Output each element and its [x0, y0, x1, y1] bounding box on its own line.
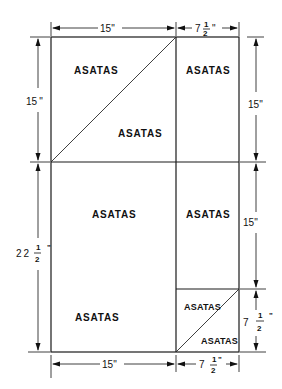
svg-text:22: 22	[16, 248, 31, 259]
label-top-left-upper: ASATAS	[74, 65, 118, 76]
dim-right-middle-15: 15"	[243, 217, 258, 228]
dim-right-upper-15: 15"	[248, 99, 263, 110]
svg-text:7: 7	[195, 23, 201, 34]
svg-text:1: 1	[204, 20, 209, 29]
svg-text:1: 1	[36, 243, 41, 252]
label-mid-right: ASATAS	[186, 209, 230, 220]
label-top-right: ASATAS	[186, 65, 230, 76]
label-bottom-right-lower: ASATAS	[201, 336, 238, 346]
dimension-top: 15" 7 1 2 "	[51, 20, 239, 38]
dim-right-lower-7-half: 7 1 2 "	[243, 311, 273, 333]
svg-text:2: 2	[257, 324, 262, 333]
dim-bottom-right-7-half: 7 1 2 "	[199, 355, 222, 375]
svg-text:": "	[218, 355, 222, 364]
svg-text:": "	[47, 243, 51, 252]
dimension-right: 15" 15" 7 1 2 "	[240, 37, 273, 352]
svg-text:1: 1	[258, 311, 263, 320]
svg-text:2: 2	[35, 255, 40, 264]
svg-text:": "	[269, 311, 273, 320]
dimension-bottom: 15" 7 1 2 "	[51, 355, 239, 378]
diagonal-top-left	[51, 37, 176, 162]
dim-left-upper-15: 15"	[26, 96, 43, 107]
svg-text:7: 7	[199, 359, 205, 370]
cutting-diagram: ASATAS ASATAS ASATAS ASATAS ASATAS ASATA…	[0, 0, 282, 389]
region-labels: ASATAS ASATAS ASATAS ASATAS ASATAS ASATA…	[74, 65, 238, 346]
svg-text:2: 2	[211, 366, 216, 375]
dim-left-lower-22-half: 22 1 2 "	[16, 243, 51, 264]
dimension-left: 15" 22 1 2 "	[16, 37, 51, 352]
svg-text:7: 7	[243, 317, 249, 328]
svg-text:2: 2	[203, 29, 208, 38]
dim-bottom-left-15: 15"	[102, 359, 117, 370]
dim-top-right-7-half: 7 1 2 "	[195, 20, 216, 38]
label-top-left-lower: ASATAS	[118, 128, 162, 139]
label-bottom-right-upper: ASATAS	[184, 302, 221, 312]
label-bottom-left: ASATAS	[75, 312, 119, 323]
dim-top-left-15: 15"	[100, 23, 115, 34]
svg-text:": "	[212, 23, 216, 34]
label-mid-left: ASATAS	[92, 209, 136, 220]
svg-text:1: 1	[212, 355, 217, 364]
